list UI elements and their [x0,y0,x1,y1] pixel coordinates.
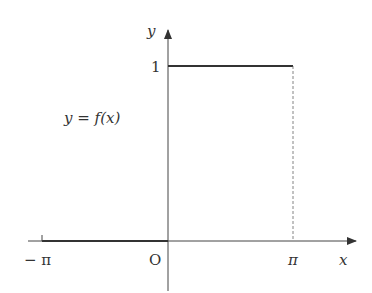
function-label: y = f(x) [63,109,120,127]
function-graph: y 1 y = f(x) − π O π x [0,0,372,293]
x-tick-neg-pi-label: − π [24,251,51,269]
y-axis-label: y [146,22,156,40]
y-tick-1-label: 1 [151,58,161,76]
x-axis-label: x [339,251,348,269]
origin-label: O [149,251,161,269]
x-tick-pi-label: π [287,251,299,269]
